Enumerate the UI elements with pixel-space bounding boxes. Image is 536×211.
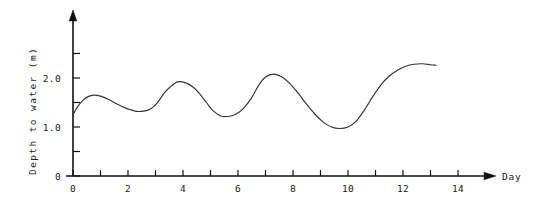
x-axis-title: Day bbox=[502, 171, 522, 182]
x-tick-label: 2 bbox=[125, 183, 131, 194]
x-tick-label: 0 bbox=[70, 183, 76, 194]
x-axis-tick-labels: 02468101214 bbox=[70, 183, 464, 194]
x-tick-label: 14 bbox=[452, 183, 464, 194]
x-tick-label: 6 bbox=[235, 183, 241, 194]
line-chart: 01.02.0 02468101214 Day Depth to water (… bbox=[0, 0, 536, 211]
y-axis-arrow-icon bbox=[69, 10, 77, 21]
x-tick-label: 8 bbox=[290, 183, 296, 194]
x-axis-arrow-icon bbox=[484, 172, 496, 180]
x-axis-ticks bbox=[73, 170, 458, 176]
x-tick-label: 12 bbox=[397, 183, 409, 194]
y-tick-label: 2.0 bbox=[43, 73, 61, 84]
y-axis-title: Depth to water (m) bbox=[27, 47, 38, 175]
y-tick-label: 0 bbox=[55, 171, 61, 182]
x-tick-label: 4 bbox=[180, 183, 186, 194]
data-series-depth-to-water bbox=[73, 64, 436, 129]
chart-figure: 01.02.0 02468101214 Day Depth to water (… bbox=[0, 0, 536, 211]
y-axis-ticks bbox=[73, 54, 80, 177]
x-tick-label: 10 bbox=[342, 183, 354, 194]
y-axis-tick-labels: 01.02.0 bbox=[43, 73, 61, 182]
y-tick-label: 1.0 bbox=[43, 122, 61, 133]
